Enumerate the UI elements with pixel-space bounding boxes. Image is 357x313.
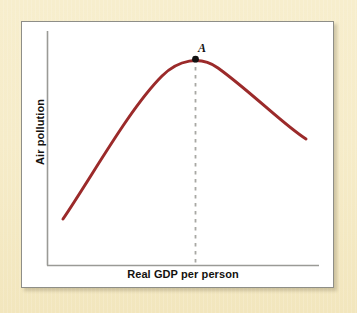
figure-root: Air pollution Real GDP per person A	[0, 0, 357, 313]
chart-card: Air pollution Real GDP per person A	[21, 21, 334, 288]
chart-plot-area	[22, 22, 335, 289]
y-axis-title: Air pollution	[34, 62, 46, 202]
point-a-marker	[192, 56, 199, 63]
air-pollution-curve	[63, 61, 306, 219]
x-axis-title: Real GDP per person	[47, 268, 319, 280]
point-a-label: A	[198, 41, 206, 56]
